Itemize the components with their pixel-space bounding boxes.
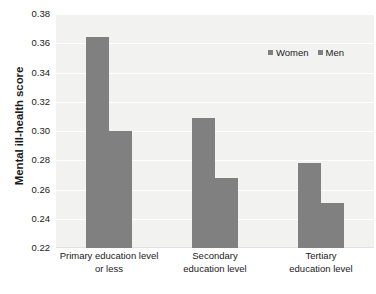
legend: WomenMen	[268, 47, 344, 58]
y-axis-tick-label: 0.26	[8, 185, 50, 195]
y-axis-tick-label: 0.38	[8, 9, 50, 19]
legend-label: Men	[326, 47, 344, 58]
y-axis-tick-label: 0.28	[8, 155, 50, 165]
legend-swatch-icon	[268, 50, 273, 55]
bar-women-2	[192, 118, 215, 248]
legend-item-women[interactable]: Women	[268, 47, 309, 58]
y-axis-tick-label: 0.22	[8, 243, 50, 253]
bar-men-1	[109, 131, 132, 248]
legend-swatch-icon	[318, 50, 323, 55]
x-axis-tick-label-line: or less	[56, 263, 162, 276]
x-axis-tick-labels: Primary education levelor lessSecondarye…	[56, 250, 374, 294]
x-axis-tick-label: Primary education levelor less	[56, 250, 162, 275]
bar-men-3	[321, 203, 344, 248]
x-axis-tick-label-line: education level	[268, 263, 374, 276]
y-axis-tick-label: 0.36	[8, 38, 50, 48]
y-axis-tick-label: 0.30	[8, 126, 50, 136]
gridline	[56, 248, 374, 249]
x-axis-tick-label: Secondaryeducation level	[162, 250, 268, 275]
y-axis-tick-label: 0.24	[8, 214, 50, 224]
y-axis-tick-label: 0.32	[8, 97, 50, 107]
bar-chart: Mental ill-health score 0.380.360.340.32…	[0, 0, 376, 294]
y-axis-tick-label: 0.34	[8, 68, 50, 78]
bar-women-1	[86, 37, 109, 248]
legend-item-men[interactable]: Men	[318, 47, 344, 58]
x-axis-tick-label-line: Secondary	[162, 250, 268, 263]
legend-label: Women	[276, 47, 309, 58]
bar-men-2	[215, 178, 238, 248]
x-axis-tick-label: Tertiaryeducation level	[268, 250, 374, 275]
x-axis-tick-label-line: Tertiary	[268, 250, 374, 263]
bar-women-3	[298, 163, 321, 248]
gridline	[56, 14, 374, 15]
x-axis-tick-label-line: Primary education level	[56, 250, 162, 263]
x-axis-tick-label-line: education level	[162, 263, 268, 276]
